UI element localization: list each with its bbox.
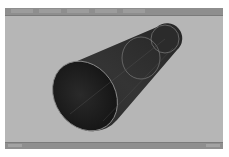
menu-item-shading[interactable] (39, 9, 61, 13)
viewport-panel (5, 8, 223, 149)
viewport-status-bar (5, 142, 223, 149)
3d-viewport[interactable] (5, 16, 223, 143)
status-left-text (8, 144, 22, 147)
menu-item-view[interactable] (11, 9, 33, 13)
menu-item-lighting[interactable] (67, 9, 89, 13)
viewport-menu-bar (5, 8, 223, 16)
menu-item-show[interactable] (95, 9, 117, 13)
cone-tube-model[interactable] (5, 16, 223, 143)
status-right-text (206, 144, 220, 147)
menu-item-renderer[interactable] (123, 9, 145, 13)
